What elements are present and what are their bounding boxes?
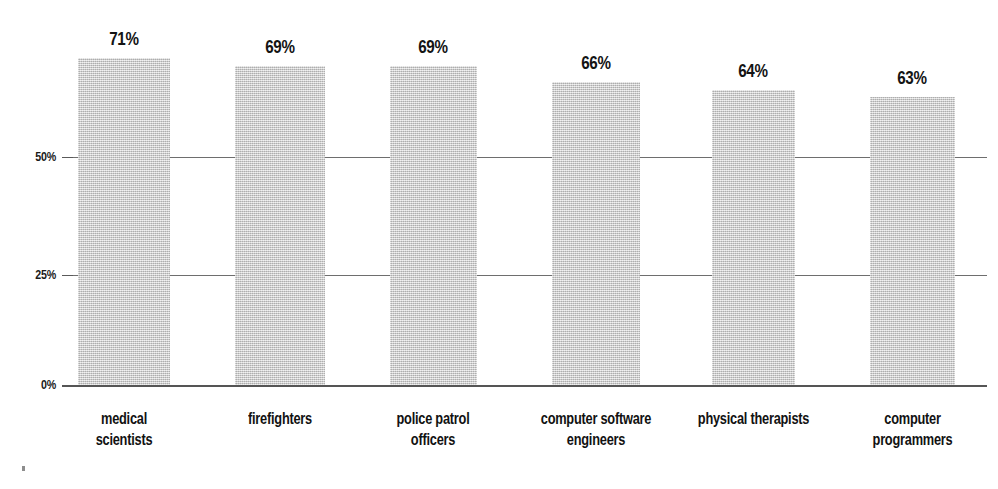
gridline-50	[62, 157, 987, 158]
y-tick-mark-25	[62, 275, 73, 276]
bar-computer-software-engineers	[552, 82, 640, 385]
x-category-label: police patrol officers	[369, 408, 497, 450]
bar-value-label: 64%	[697, 60, 809, 82]
bar-firefighters	[235, 66, 325, 385]
bar-physical-therapists	[712, 90, 795, 385]
y-tick-label-25: 25%	[10, 267, 56, 282]
x-category-label: medical scientists	[60, 408, 188, 450]
x-category-label: computer programmers	[847, 408, 979, 450]
y-tick-label-50: 50%	[10, 149, 56, 164]
bar-chart: 50% 25% 0% 71% 69% 69% 66% 64% 63% medic…	[0, 0, 998, 489]
bar-value-label: 69%	[377, 36, 489, 58]
y-tick-label-0: 0%	[10, 377, 56, 392]
x-category-label: computer software engineers	[524, 408, 668, 450]
plot-area: 50% 25% 0% 71% 69% 69% 66% 64% 63% medic…	[0, 0, 998, 489]
bar-value-label: 63%	[856, 67, 968, 89]
x-category-label: physical therapists	[684, 408, 824, 429]
y-tick-mark-50	[62, 157, 73, 158]
bar-medical-scientists	[78, 58, 170, 385]
x-axis-baseline	[62, 385, 987, 387]
scan-artifact-speck	[22, 466, 25, 471]
bar-police-patrol-officers	[390, 66, 477, 385]
bar-value-label: 66%	[540, 52, 652, 74]
bar-value-label: 69%	[224, 36, 336, 58]
bar-computer-programmers	[870, 97, 955, 385]
bar-value-label: 71%	[68, 28, 180, 50]
gridline-25	[62, 275, 987, 276]
x-category-label: firefighters	[216, 408, 344, 429]
